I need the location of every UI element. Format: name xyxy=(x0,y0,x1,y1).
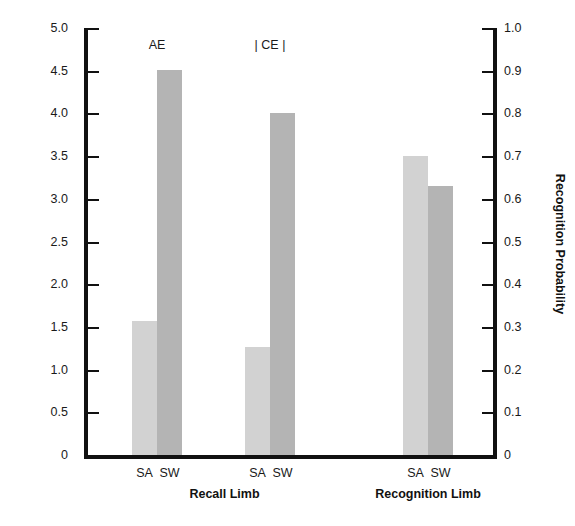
y-axis-right-tick-label: 0 xyxy=(504,449,511,461)
y-axis-left-tick-label: 5.0 xyxy=(0,22,68,34)
y-axis-left-tick xyxy=(88,156,99,158)
y-axis-right-tick-label: 0.8 xyxy=(504,107,521,119)
y-axis-left-tick-label: 0 xyxy=(0,449,68,461)
y-axis-right-tick-label: 0.7 xyxy=(504,150,521,162)
y-axis-left-tick xyxy=(88,370,99,372)
bar-recognition-limb-sa xyxy=(403,156,428,455)
y-axis-right-line xyxy=(493,28,497,459)
bar-recall-limb-sa xyxy=(245,347,270,455)
bar-recognition-limb-sw xyxy=(428,186,453,455)
series-label-sw: SW xyxy=(272,466,292,480)
y-axis-right-tick-label: 0.3 xyxy=(504,321,521,333)
y-axis-right-tick xyxy=(482,199,493,201)
group-annotation: AE xyxy=(149,38,166,52)
group-label: Recall Limb xyxy=(189,487,259,501)
y-axis-left-tick-label: 1.0 xyxy=(0,364,68,376)
y-axis-left-tick xyxy=(88,199,99,201)
y-axis-left-tick-label: 1.5 xyxy=(0,321,68,333)
y-axis-left-tick-label: 2.0 xyxy=(0,278,68,290)
y-axis-left-tick xyxy=(88,284,99,286)
y-axis-right-tick xyxy=(482,71,493,73)
series-label-sa: SA xyxy=(407,466,424,480)
y-axis-left-tick xyxy=(88,113,99,115)
y-axis-right-tick xyxy=(482,327,493,329)
y-axis-left-tick-label: 4.0 xyxy=(0,107,68,119)
y-axis-right-tick xyxy=(482,28,493,30)
y-axis-left-tick-label: 0.5 xyxy=(0,406,68,418)
series-label-sw: SW xyxy=(430,466,450,480)
y-axis-left-tick xyxy=(88,455,99,457)
y-axis-left-tick xyxy=(88,242,99,244)
series-label-sa: SA xyxy=(136,466,153,480)
y-axis-left-line xyxy=(84,28,88,459)
y-axis-left-tick-label: 2.5 xyxy=(0,236,68,248)
y-axis-left-tick-label: 3.0 xyxy=(0,193,68,205)
y-axis-right-tick-label: 0.9 xyxy=(504,65,521,77)
y-axis-right-tick-label: 0.5 xyxy=(504,236,521,248)
y-axis-right-tick xyxy=(482,113,493,115)
series-label-sw: SW xyxy=(159,466,179,480)
y-axis-right-tick-label: 1.0 xyxy=(504,22,521,34)
y-axis-right-tick-label: 0.6 xyxy=(504,193,521,205)
y-axis-left-tick-label: 3.5 xyxy=(0,150,68,162)
y-axis-right-tick-label: 0.4 xyxy=(504,278,521,290)
y-axis-right-tick xyxy=(482,455,493,457)
group-label: Recognition Limb xyxy=(375,487,481,501)
y-axis-right-title: Recognition Probability xyxy=(553,174,567,314)
group-annotation: | CE | xyxy=(255,38,286,52)
bar-recall-limb-sw xyxy=(270,113,295,455)
y-axis-right-tick-label: 0.2 xyxy=(504,364,521,376)
y-axis-right-tick-label: 0.1 xyxy=(504,406,521,418)
bar-recall-limb-sa xyxy=(132,321,157,455)
y-axis-left-tick xyxy=(88,71,99,73)
y-axis-right-tick xyxy=(482,370,493,372)
bar-chart-figure: 00.51.01.52.02.53.03.54.04.55.0 00.10.20… xyxy=(0,0,575,526)
bar-recall-limb-sw xyxy=(157,70,182,455)
y-axis-left-tick xyxy=(88,412,99,414)
y-axis-right-tick xyxy=(482,284,493,286)
series-label-sa: SA xyxy=(249,466,266,480)
y-axis-right-tick xyxy=(482,156,493,158)
y-axis-left-tick xyxy=(88,28,99,30)
y-axis-right-tick xyxy=(482,412,493,414)
y-axis-left-tick-label: 4.5 xyxy=(0,65,68,77)
y-axis-left-tick xyxy=(88,327,99,329)
x-axis-line xyxy=(84,455,497,459)
y-axis-right-tick xyxy=(482,242,493,244)
plot-area xyxy=(84,28,497,459)
